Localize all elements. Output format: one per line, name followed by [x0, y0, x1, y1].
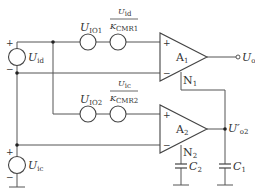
- output-uo2: U′o2: [228, 122, 248, 136]
- svg-text:U′o2: U′o2: [228, 122, 248, 136]
- svg-text:C2: C2: [189, 160, 202, 174]
- capacitor-c1: C1: [219, 160, 246, 174]
- cmr2-error-source: Uic KCMR2: [109, 79, 138, 122]
- svg-text:+: +: [163, 38, 171, 48]
- svg-text:+: +: [163, 110, 171, 120]
- capacitor-c2: C2: [175, 160, 202, 174]
- svg-text:−: −: [6, 64, 14, 74]
- opamp-a2: + − A2 N2: [160, 105, 207, 160]
- uic-voltage-source: + − Uic: [6, 147, 44, 182]
- output-uo: Uo: [236, 51, 255, 65]
- cmr1-error-source: Uid KCMR1: [109, 7, 138, 50]
- uio1-offset-source: UIO1: [80, 21, 102, 50]
- svg-text:Uid: Uid: [118, 7, 132, 18]
- svg-text:N1: N1: [183, 74, 197, 88]
- svg-text:KCMR1: KCMR1: [109, 22, 138, 33]
- svg-text:−: −: [6, 172, 14, 182]
- svg-text:Uid: Uid: [28, 51, 45, 65]
- svg-text:Uic: Uic: [28, 159, 44, 173]
- svg-text:KCMR2: KCMR2: [109, 94, 138, 105]
- svg-text:UIO1: UIO1: [80, 21, 102, 35]
- opamp-a1: + − A1 N1: [160, 33, 207, 88]
- circuit-diagram: + − Uid + − Uic UIO1 Uid KCMR1 UIO2 Uic …: [0, 0, 255, 196]
- svg-text:Uo: Uo: [242, 51, 255, 65]
- svg-text:−: −: [163, 140, 171, 150]
- uid-voltage-source: + − Uid: [6, 38, 45, 74]
- svg-text:C1: C1: [233, 160, 246, 174]
- svg-text:Uic: Uic: [118, 79, 131, 90]
- uio2-offset-source: UIO2: [80, 93, 102, 122]
- svg-text:−: −: [163, 68, 171, 78]
- svg-text:+: +: [6, 38, 14, 48]
- svg-text:+: +: [6, 147, 14, 157]
- svg-text:UIO2: UIO2: [80, 93, 102, 107]
- svg-text:N2: N2: [183, 146, 197, 160]
